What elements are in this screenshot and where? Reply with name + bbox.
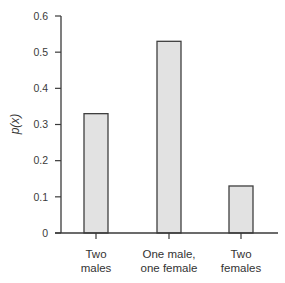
x-tick-label: Twofemales [221,248,262,274]
bar [157,41,181,233]
y-tick-label: 0.6 [33,10,48,22]
y-tick-label: 0.2 [33,154,48,166]
y-tick-label: 0.4 [33,82,48,94]
x-tick-label: Twomales [81,248,112,274]
x-tick-label: One male,one female [141,248,198,274]
bar-chart: 00.10.20.30.40.50.6 TwomalesOne male,one… [0,0,285,283]
bar [229,186,253,233]
y-tick-label: 0 [42,227,48,239]
y-tick-label: 0.3 [33,118,48,130]
y-axis-ticks: 00.10.20.30.40.50.6 [33,10,61,239]
x-axis-ticks: TwomalesOne male,one femaleTwofemales [81,233,262,274]
y-tick-label: 0.5 [33,46,48,58]
bars [84,41,253,233]
bar [84,114,108,233]
y-tick-label: 0.1 [33,191,48,203]
y-axis-title: p(x) [8,114,22,136]
